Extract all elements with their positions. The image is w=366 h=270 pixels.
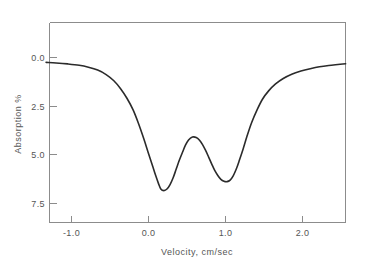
y-axis-title: Absorption %: [13, 94, 23, 154]
x-tick-label-3: 2.0: [296, 228, 310, 238]
x-axis-ticks: [72, 216, 303, 223]
absorption-velocity-chart: 0.0 2.5 5.0 7.5 -1.0 0.0 1.0 2.0 Velocit…: [0, 0, 366, 270]
y-tick-label-2: 5.0: [31, 150, 45, 160]
y-tick-label-0: 0.0: [31, 53, 45, 63]
y-axis-ticks: [50, 58, 57, 204]
x-axis-title: Velocity, cm/sec: [161, 247, 233, 257]
plot-frame: [50, 23, 346, 223]
chart-figure: 0.0 2.5 5.0 7.5 -1.0 0.0 1.0 2.0 Velocit…: [0, 0, 366, 270]
y-tick-labels: 0.0 2.5 5.0 7.5: [31, 53, 45, 209]
x-tick-label-0: -1.0: [63, 228, 80, 238]
y-tick-label-1: 2.5: [31, 102, 45, 112]
x-tick-labels: -1.0 0.0 1.0 2.0: [63, 228, 309, 238]
absorption-curve: [46, 62, 346, 190]
x-tick-label-1: 0.0: [142, 228, 156, 238]
x-tick-label-2: 1.0: [219, 228, 233, 238]
y-tick-label-3: 7.5: [31, 199, 45, 209]
